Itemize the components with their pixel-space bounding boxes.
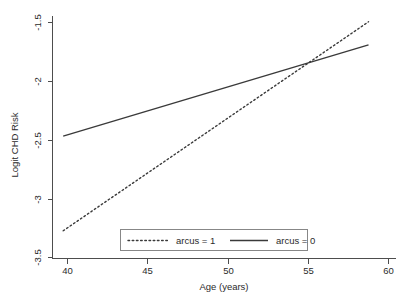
y-axis-ticks xyxy=(48,23,53,258)
series-group xyxy=(63,22,368,231)
y-tick-label: -3 xyxy=(32,195,43,203)
x-tick-label: 50 xyxy=(223,265,234,276)
y-tick-label: -1.5 xyxy=(32,14,43,30)
series-line-arcus-1 xyxy=(63,22,368,231)
chart-canvas: -1.5 -2 -2.5 -3 -3.5 Logit CHD Risk 40 4… xyxy=(0,0,406,299)
x-tick-label: 45 xyxy=(142,265,153,276)
y-axis-title: Logit CHD Risk xyxy=(9,112,20,177)
legend-label-arcus-0: arcus = 0 xyxy=(276,235,315,246)
series-line-arcus-0 xyxy=(63,45,368,136)
x-tick-label: 55 xyxy=(303,265,314,276)
x-axis-tick-labels: 40 45 50 55 60 xyxy=(62,265,394,276)
x-axis-title: Age (years) xyxy=(199,281,248,292)
y-tick-label: -3.5 xyxy=(32,249,43,265)
legend-label-arcus-1: arcus = 1 xyxy=(176,235,215,246)
y-axis-tick-labels: -1.5 -2 -2.5 -3 -3.5 xyxy=(32,14,43,265)
x-axis-ticks xyxy=(68,259,389,264)
chart-legend: arcus = 1 arcus = 0 xyxy=(121,230,316,251)
y-tick-label: -2.5 xyxy=(32,132,43,148)
chart-figure: -1.5 -2 -2.5 -3 -3.5 Logit CHD Risk 40 4… xyxy=(0,0,406,299)
y-tick-label: -2 xyxy=(32,77,43,85)
x-tick-label: 40 xyxy=(62,265,73,276)
x-tick-label: 60 xyxy=(383,265,394,276)
